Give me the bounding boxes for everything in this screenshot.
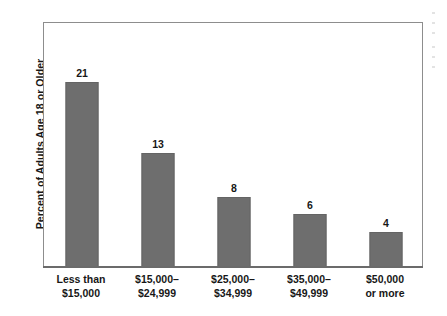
scan-artifact [432, 12, 444, 70]
bar-value-label: 8 [231, 182, 237, 194]
x-axis-label-line2: $24,999 [119, 286, 195, 300]
bar-slot: 6 [272, 23, 348, 267]
x-axis-label-line2: or more [347, 286, 423, 300]
bar[interactable] [142, 153, 175, 267]
x-axis-label-line1: Less than [43, 272, 119, 286]
x-axis-label-line2: $15,000 [43, 286, 119, 300]
x-axis-label: $50,000or more [347, 272, 423, 300]
bar-slot: 4 [348, 23, 424, 267]
bars-layer: 2113864 [44, 23, 422, 267]
x-axis-label: $35,000–$49,999 [271, 272, 347, 300]
bar[interactable] [218, 197, 251, 267]
bar-chart-figure: Percent of Adults Age 18 or Older 211386… [0, 0, 447, 316]
x-axis-label: $15,000–$24,999 [119, 272, 195, 300]
bar-slot: 13 [120, 23, 196, 267]
x-axis-tick-labels: Less than$15,000$15,000–$24,999$25,000–$… [43, 272, 423, 312]
bar-slot: 8 [196, 23, 272, 267]
x-axis-label-line2: $34,999 [195, 286, 271, 300]
bar[interactable] [66, 82, 99, 267]
x-axis-label-line1: $15,000– [119, 272, 195, 286]
x-axis-label-line1: $35,000– [271, 272, 347, 286]
x-axis-label: $25,000–$34,999 [195, 272, 271, 300]
bar-value-label: 6 [307, 199, 313, 211]
x-axis-label-line2: $49,999 [271, 286, 347, 300]
bar-value-label: 13 [152, 138, 164, 150]
x-axis-label-line1: $25,000– [195, 272, 271, 286]
plot-area: 2113864 [43, 22, 423, 268]
bar[interactable] [370, 232, 403, 267]
x-axis-label: Less than$15,000 [43, 272, 119, 300]
x-axis-label-line1: $50,000 [347, 272, 423, 286]
bar-slot: 21 [44, 23, 120, 267]
bar[interactable] [294, 214, 327, 267]
bar-value-label: 21 [76, 67, 88, 79]
bar-value-label: 4 [383, 217, 389, 229]
